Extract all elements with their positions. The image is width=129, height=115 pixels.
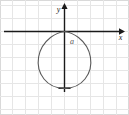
y-axis-label: y bbox=[56, 5, 61, 14]
parameter-label-a: a bbox=[70, 37, 74, 46]
cardioid-figure: x y a bbox=[0, 0, 129, 115]
plot-canvas: x y a bbox=[0, 0, 129, 115]
x-axis-label: x bbox=[118, 33, 123, 42]
